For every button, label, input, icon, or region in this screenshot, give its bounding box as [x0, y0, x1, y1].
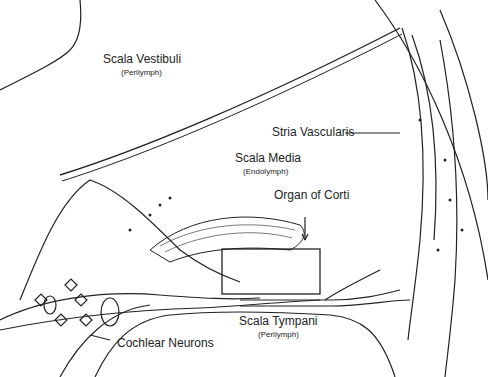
label-stria-vascularis: Stria Vascularis: [272, 126, 354, 138]
label-organ-of-corti: Organ of Corti: [274, 189, 349, 201]
label-scala-vestibuli: Scala Vestibuli: [103, 53, 181, 65]
label-scala-media: Scala Media: [235, 152, 301, 164]
label-scala-vestibuli-fluid: (Perilymph): [121, 69, 162, 77]
neurons-arrow: [90, 335, 110, 340]
left-wall: [0, 0, 81, 90]
label-scala-tympani-fluid: (Perilymph): [258, 331, 299, 339]
label-cochlear-neurons: Cochlear Neurons: [117, 337, 214, 349]
cochlea-diagram: Scala Vestibuli (Perilymph) Stria Vascul…: [0, 0, 488, 377]
organ-of-corti-box: [222, 249, 320, 294]
right-outer-wall: [375, 0, 488, 280]
label-scala-media-fluid: (Endolymph): [243, 168, 288, 176]
label-scala-tympani: Scala Tympani: [239, 315, 318, 327]
